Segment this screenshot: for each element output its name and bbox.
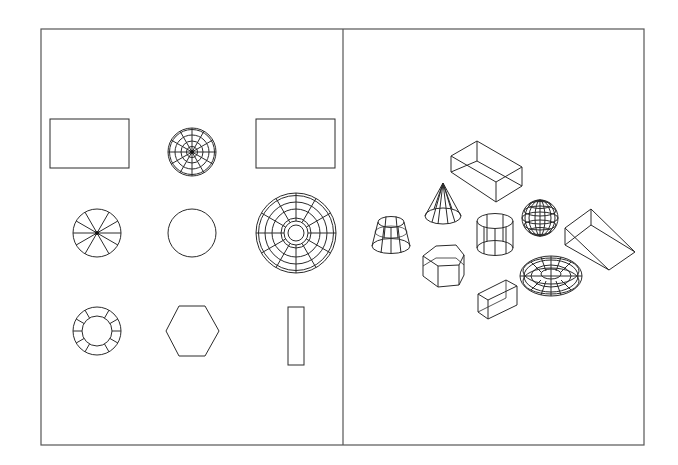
box-isometric	[451, 141, 522, 202]
truncated-cone-isometric	[372, 217, 410, 254]
cone-isometric	[425, 183, 461, 224]
truncated-cone-top-view	[73, 307, 121, 355]
sphere-top-view	[168, 128, 216, 176]
isometric-view-panel	[372, 141, 635, 319]
plan-view-panel	[50, 119, 336, 365]
torus-isometric	[520, 256, 582, 296]
hexagonal-prism-isometric	[423, 245, 464, 287]
cylinder-top-view	[168, 209, 216, 257]
cone-top-view	[73, 209, 121, 257]
hexagonal-prism-top-view	[166, 306, 219, 356]
wedge-isometric	[565, 209, 635, 270]
small-box-top-view	[288, 307, 304, 365]
cylinder-isometric	[477, 214, 513, 256]
box-top-view	[50, 119, 129, 168]
wedge-top-view	[256, 119, 335, 168]
small-box-isometric	[478, 280, 517, 319]
diagram-frame	[41, 29, 644, 445]
torus-top-view	[256, 193, 336, 273]
sphere-isometric	[522, 200, 558, 236]
diagram-canvas	[0, 0, 678, 465]
